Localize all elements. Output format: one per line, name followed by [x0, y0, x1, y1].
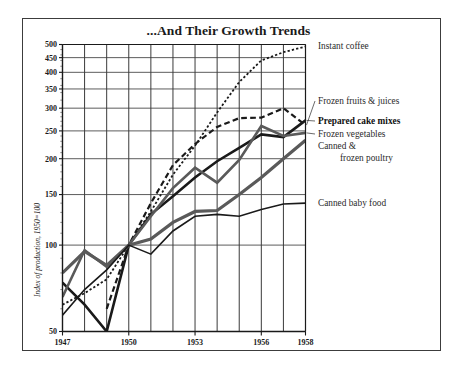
x-tick-label: 1950 — [121, 338, 137, 347]
leader-line — [307, 133, 316, 134]
legend-label: Canned baby food — [318, 198, 387, 208]
x-tick-label: 1958 — [298, 338, 314, 347]
legend-label: frozen poultry — [340, 153, 393, 163]
y-tick-label: 300 — [45, 104, 57, 113]
legend-label: Canned & — [318, 141, 357, 151]
x-axis-ticks: 19471950195319561958 — [55, 332, 314, 348]
y-tick-label: 450 — [45, 54, 57, 63]
y-tick-label: 400 — [45, 68, 57, 77]
x-tick-label: 1953 — [187, 338, 203, 347]
y-tick-label: 50 — [49, 327, 57, 336]
legend-label: Frozen fruits & juices — [318, 96, 400, 106]
y-tick-label: 350 — [45, 85, 57, 94]
series-line — [63, 120, 306, 331]
y-axis-ticks: 50100150200250300350400450500 — [45, 40, 63, 336]
series-line — [63, 126, 306, 297]
legend-labels: Instant coffeeFrozen fruits & juicesPrep… — [318, 41, 401, 208]
leader-line — [307, 101, 316, 125]
legend-label: Instant coffee — [318, 41, 369, 51]
line-chart-plot: 50100150200250300350400450500 1947195019… — [0, 0, 457, 372]
x-tick-label: 1956 — [253, 338, 269, 347]
y-tick-label: 150 — [45, 190, 57, 199]
legend-label: Prepared cake mixes — [318, 116, 401, 126]
series-line — [63, 140, 306, 273]
y-tick-label: 500 — [45, 40, 57, 49]
y-tick-label: 250 — [45, 127, 57, 136]
x-tick-label: 1947 — [55, 338, 71, 347]
series-line — [107, 108, 306, 309]
legend-label: Frozen vegetables — [318, 129, 386, 139]
leader-lines — [307, 101, 316, 134]
figure-container: ...And Their Growth Trends 5010015020025… — [0, 0, 457, 372]
y-tick-label: 200 — [45, 155, 57, 164]
series-line — [63, 47, 306, 305]
y-tick-label: 100 — [45, 241, 57, 250]
y-axis-label: Index of production, 1950=100 — [33, 203, 42, 298]
